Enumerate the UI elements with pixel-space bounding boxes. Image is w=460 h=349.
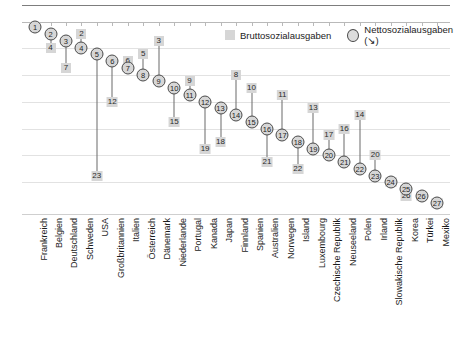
axis-tick	[97, 22, 98, 26]
connector-line	[359, 115, 360, 169]
net-rank-marker[interactable]: 21	[338, 156, 351, 169]
gross-rank-marker[interactable]: 3	[154, 36, 164, 46]
x-axis-label: Slowakische Republik	[394, 218, 404, 306]
gross-rank-marker[interactable]: 9	[185, 76, 195, 86]
circle-marker-icon	[347, 29, 359, 42]
net-rank-marker[interactable]: 23	[369, 169, 382, 182]
x-axis-label: Portugal	[193, 218, 203, 252]
axis-tick	[174, 22, 175, 26]
net-rank-marker[interactable]: 11	[183, 88, 196, 101]
x-axis-label: Norwegen	[286, 218, 296, 259]
net-rank-marker[interactable]: 25	[400, 183, 413, 196]
gridline	[22, 129, 450, 130]
x-axis-label: Finnland	[240, 218, 250, 253]
gross-rank-marker[interactable]: 11	[277, 90, 287, 100]
gross-rank-marker[interactable]: 14	[354, 110, 365, 120]
net-rank-marker[interactable]: 19	[307, 142, 320, 155]
x-axis-label: Mexiko	[441, 218, 451, 247]
net-rank-marker[interactable]: 14	[230, 109, 243, 122]
plot-area: 1142732423512667583915109111912181381410…	[22, 22, 450, 208]
net-rank-marker[interactable]: 15	[245, 115, 258, 128]
gross-rank-marker[interactable]: 16	[339, 124, 350, 134]
x-axis-label: Italien	[131, 218, 141, 242]
x-axis-label: Neuseeland	[348, 218, 358, 266]
x-axis-label: Deutschland	[69, 218, 79, 268]
axis-tick	[81, 22, 82, 26]
x-axis-label: Luxembourg	[317, 218, 327, 268]
net-rank-marker[interactable]: 2	[44, 28, 57, 41]
net-rank-marker[interactable]: 1	[29, 21, 42, 34]
net-rank-marker[interactable]: 7	[121, 61, 134, 74]
x-axis-label: Großbritannien	[116, 218, 126, 278]
net-rank-marker[interactable]: 17	[276, 129, 289, 142]
gross-rank-marker[interactable]: 23	[91, 171, 102, 181]
gross-rank-marker[interactable]: 10	[246, 83, 257, 93]
net-rank-marker[interactable]: 18	[291, 136, 304, 149]
net-rank-marker[interactable]: 5	[90, 48, 103, 61]
axis-tick	[66, 22, 67, 26]
net-rank-marker[interactable]: 3	[59, 34, 72, 47]
net-rank-marker[interactable]: 27	[431, 196, 444, 209]
gross-rank-marker[interactable]: 18	[215, 137, 226, 147]
net-rank-marker[interactable]: 26	[415, 189, 428, 202]
gross-rank-marker[interactable]: 7	[61, 63, 71, 73]
chart-legend: Bruttosozialausgaben Nettosozialausgaben…	[225, 24, 460, 46]
axis-tick	[159, 22, 160, 26]
gross-rank-marker[interactable]: 2	[76, 29, 86, 39]
net-rank-marker[interactable]: 13	[214, 102, 227, 115]
x-axis-label: Irland	[379, 218, 389, 241]
x-axis-label: Korea	[410, 218, 420, 242]
net-rank-marker[interactable]: 10	[168, 82, 181, 95]
gross-rank-marker[interactable]: 17	[323, 130, 334, 140]
gross-rank-marker[interactable]: 4	[46, 43, 56, 53]
x-axis-label: Niederlande	[178, 218, 188, 267]
net-rank-marker[interactable]: 24	[384, 176, 397, 189]
gross-rank-marker[interactable]: 19	[200, 144, 211, 154]
x-axis-label: Kanada	[209, 218, 219, 249]
net-rank-marker[interactable]: 8	[137, 68, 150, 81]
legend-label-gross: Bruttosozialausgaben	[240, 30, 331, 41]
net-rank-marker[interactable]: 6	[106, 55, 119, 68]
net-rank-marker[interactable]: 9	[152, 75, 165, 88]
gross-rank-marker[interactable]: 15	[169, 117, 180, 127]
legend-label-net: Nettosozialausgaben (↘)	[364, 24, 460, 46]
x-axis-label: Österreich	[147, 218, 157, 260]
connector-line	[96, 54, 97, 175]
gridline	[22, 155, 450, 156]
x-axis-label: Belgien	[54, 218, 64, 248]
gross-rank-marker[interactable]: 8	[231, 70, 241, 80]
gross-rank-marker[interactable]: 12	[107, 97, 118, 107]
bottom-axis-line	[22, 214, 450, 215]
net-rank-marker[interactable]: 20	[322, 149, 335, 162]
x-axis-label: Spanien	[255, 218, 265, 251]
x-axis-label: Czechische Republik	[332, 218, 342, 302]
x-axis-label: Dänemark	[162, 218, 172, 260]
top-rule	[22, 5, 450, 6]
x-axis-label: USA	[100, 218, 110, 237]
chart-canvas: 1142732423512667583915109111912181381410…	[0, 0, 460, 349]
gross-rank-marker[interactable]: 13	[308, 103, 319, 113]
gross-rank-marker[interactable]: 21	[261, 157, 272, 167]
axis-tick	[128, 22, 129, 26]
axis-tick	[221, 22, 222, 26]
axis-tick	[205, 22, 206, 26]
gross-rank-marker[interactable]: 22	[292, 164, 303, 174]
axis-tick	[190, 22, 191, 26]
net-rank-marker[interactable]: 22	[353, 162, 366, 175]
x-axis-labels: FrankreichBelgienDeutschlandSchwedenUSAG…	[22, 218, 450, 346]
net-rank-marker[interactable]: 12	[199, 95, 212, 108]
x-axis-label: Island	[301, 218, 311, 242]
gross-rank-marker[interactable]: 5	[138, 49, 148, 59]
axis-tick	[51, 22, 52, 26]
gross-rank-marker[interactable]: 20	[370, 150, 381, 160]
x-axis-label: Australien	[270, 218, 280, 258]
net-rank-marker[interactable]: 4	[75, 41, 88, 54]
axis-tick	[112, 22, 113, 26]
axis-tick	[143, 22, 144, 26]
x-axis-label: Japan	[224, 218, 234, 243]
net-rank-marker[interactable]: 16	[260, 122, 273, 135]
legend-item-net: Nettosozialausgaben (↘)	[347, 24, 460, 46]
connector-line	[205, 102, 206, 149]
x-axis-label: Polen	[363, 218, 373, 241]
filled-square-marker-icon	[225, 30, 235, 40]
